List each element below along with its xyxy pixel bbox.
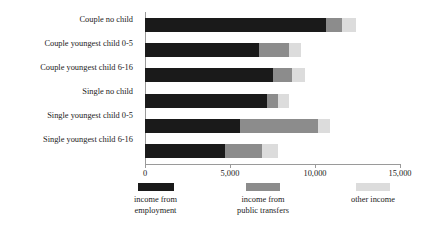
bar-row [145, 119, 400, 133]
bar-segment [259, 43, 289, 57]
bar-row [145, 68, 400, 82]
legend-swatch-other-income [356, 183, 390, 191]
bar-segment [267, 94, 277, 108]
x-axis-tick [315, 164, 316, 168]
bar-segment [262, 144, 278, 158]
bar-segment [292, 68, 305, 82]
bar-row [145, 144, 400, 158]
category-label-single-youngest-child-0-5: Single youngest child 0-5 [47, 111, 133, 121]
x-axis-tick [400, 164, 401, 168]
plot-area [145, 12, 400, 164]
legend-swatch-employment [138, 183, 174, 191]
bar-segment [145, 94, 267, 108]
legend-item-employment: income from employment [118, 183, 193, 216]
bar-segment [240, 119, 317, 133]
x-axis-tick-label: 10,000 [303, 169, 326, 179]
bar-segment [289, 43, 301, 57]
bar-segment [145, 68, 273, 82]
bar-segment [326, 18, 342, 32]
x-axis-tick-label: 15,000 [388, 169, 411, 179]
category-label-single-youngest-child-6-16: Single youngest child 6-16 [43, 135, 133, 145]
legend-item-public-transfers: income from public transfers [224, 183, 302, 216]
bar-segment [273, 68, 293, 82]
legend-swatch-public-transfers [246, 183, 280, 191]
bar-segment [145, 144, 225, 158]
bar-segment [225, 144, 262, 158]
bar-segment [278, 94, 289, 108]
bar-segment [145, 119, 240, 133]
bar-segment [318, 119, 331, 133]
x-axis-tick-label: 5,000 [221, 169, 240, 179]
bar-segment [145, 43, 259, 57]
chart-legend: income from employment income from publi… [0, 183, 427, 228]
category-label-couple-youngest-child-0-5: Couple youngest child 0-5 [44, 39, 133, 49]
bar-row [145, 43, 400, 57]
bar-segment [342, 18, 356, 32]
legend-label-employment: income from employment [118, 195, 193, 216]
legend-label-other-income: other income [333, 195, 413, 206]
stacked-bar-chart: Couple no child Couple youngest child 0-… [0, 0, 427, 228]
legend-label-public-transfers: income from public transfers [224, 195, 302, 216]
category-label-couple-no-child: Couple no child [79, 15, 133, 25]
legend-item-other-income: other income [333, 183, 413, 206]
bar-row [145, 18, 400, 32]
x-axis-tick [145, 164, 146, 168]
x-axis-tick-label: 0 [143, 169, 147, 179]
x-axis-tick [230, 164, 231, 168]
bar-segment [145, 18, 326, 32]
x-axis-line [145, 164, 401, 165]
category-label-single-no-child: Single no child [82, 87, 133, 97]
category-axis-labels: Couple no child Couple youngest child 0-… [0, 12, 140, 164]
bar-row [145, 94, 400, 108]
category-label-couple-youngest-child-6-16: Couple youngest child 6-16 [40, 63, 133, 73]
